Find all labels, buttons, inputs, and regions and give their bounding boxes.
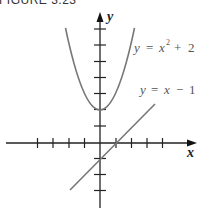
svg-text:y: y — [138, 82, 146, 97]
svg-text:2: 2 — [188, 40, 195, 55]
y-axis-label: y — [105, 9, 114, 24]
svg-text:=: = — [146, 40, 153, 55]
svg-text:−: − — [176, 82, 183, 97]
x-axis-label: x — [186, 145, 194, 160]
line-label: y = x − 1 — [138, 82, 196, 97]
parabola-label: y = x 2 + 2 — [132, 38, 195, 55]
svg-text:+: + — [174, 40, 181, 55]
svg-text:=: = — [151, 82, 158, 97]
svg-text:2: 2 — [166, 38, 170, 47]
graph: y x y = x 2 + 2 y = x − 1 — [0, 0, 203, 208]
y-axis-arrow-icon — [97, 12, 104, 22]
svg-text:1: 1 — [189, 82, 196, 97]
svg-text:x: x — [163, 82, 170, 97]
svg-text:y: y — [132, 40, 140, 55]
line-curve — [70, 104, 155, 190]
svg-text:x: x — [158, 40, 165, 55]
